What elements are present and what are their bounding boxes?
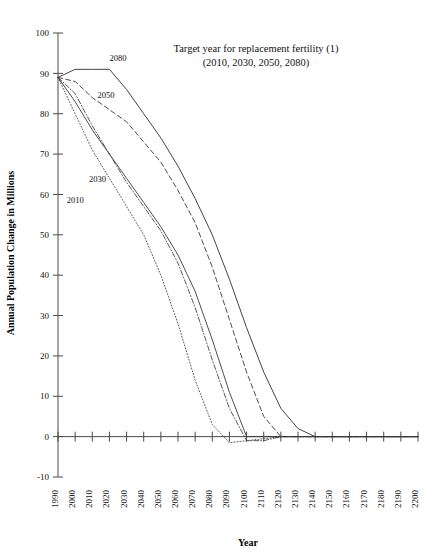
x-tick-label: 2100 xyxy=(239,490,249,509)
series-label-2010: 2010 xyxy=(67,195,84,205)
x-axis-title: Year xyxy=(238,537,259,548)
axes-group xyxy=(53,33,418,477)
population-change-line-chart: Target year for replacement fertility (1… xyxy=(0,0,437,553)
y-tick-label: 70 xyxy=(40,149,50,159)
x-tick-label: 2120 xyxy=(273,490,283,509)
x-tick-label: 2040 xyxy=(136,490,146,509)
x-tick-label: 2000 xyxy=(67,490,77,509)
x-tick-label: 2180 xyxy=(376,490,386,509)
x-tick-label: 2020 xyxy=(101,490,111,509)
chart-subtitle: (2010, 2030, 2050, 2080) xyxy=(203,57,310,69)
x-tick-label: 2050 xyxy=(153,490,163,509)
y-tick-labels-group: -100102030405060708090100 xyxy=(36,28,50,482)
series-line-2030-light xyxy=(58,77,418,436)
series-label-2030: 2030 xyxy=(89,174,106,184)
x-tick-label: 2010 xyxy=(84,490,94,509)
chart-title-group: Target year for replacement fertility (1… xyxy=(174,43,339,69)
x-tick-label: 1990 xyxy=(50,490,60,509)
y-tick-label: 100 xyxy=(36,28,50,38)
x-tick-label: 2060 xyxy=(170,490,180,509)
y-tick-label: 10 xyxy=(40,391,50,401)
x-tick-labels-group: 1990200020102020203020402050206020702080… xyxy=(50,490,420,509)
series-label-2050: 2050 xyxy=(98,90,115,100)
x-tick-label: 2160 xyxy=(341,490,351,509)
y-tick-label: 80 xyxy=(40,109,50,119)
x-tick-label: 2190 xyxy=(393,490,403,509)
series-labels-group: 2010203020502080 xyxy=(67,53,127,204)
y-tick-label: 0 xyxy=(45,432,50,442)
y-tick-label: 30 xyxy=(40,311,50,321)
x-tick-label: 2170 xyxy=(359,490,369,509)
x-tick-label: 2080 xyxy=(204,490,214,509)
chart-container: Target year for replacement fertility (1… xyxy=(0,0,437,553)
series-label-2080: 2080 xyxy=(110,53,127,63)
series-line-2050 xyxy=(58,77,418,436)
x-tick-label: 2130 xyxy=(290,490,300,509)
chart-title: Target year for replacement fertility (1… xyxy=(174,43,339,55)
y-tick-label: -10 xyxy=(37,472,49,482)
y-tick-label: 50 xyxy=(40,230,50,240)
y-axis-title: Annual Population Change in Millions xyxy=(5,171,16,336)
y-tick-label: 60 xyxy=(40,190,50,200)
x-tick-label: 2150 xyxy=(324,490,334,509)
series-line-2030 xyxy=(58,77,418,440)
series-line-2010 xyxy=(58,77,418,442)
y-tick-label: 20 xyxy=(40,351,50,361)
x-tick-label: 2140 xyxy=(307,490,317,509)
x-tick-label: 2200 xyxy=(410,490,420,509)
y-tick-label: 40 xyxy=(40,270,50,280)
series-curves-group xyxy=(58,69,418,442)
y-tick-label: 90 xyxy=(40,69,50,79)
series-line-2080 xyxy=(58,69,418,436)
x-tick-label: 2070 xyxy=(187,490,197,509)
x-tick-label: 2110 xyxy=(256,490,266,508)
x-tick-label: 2030 xyxy=(119,490,129,509)
x-tick-label: 2090 xyxy=(221,490,231,509)
